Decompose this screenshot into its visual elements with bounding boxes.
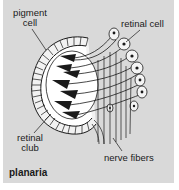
label-retinal-club: retinal club [12,133,48,153]
label-pigment-cell: pigment cell [10,8,50,28]
label-retinal-cell: retinal cell [121,19,164,29]
label-nerve-fibers: nerve fibers [104,153,154,163]
figure-caption: planaria [9,167,47,178]
label-pigment-cell-line2: cell [10,18,50,28]
label-retinal-club-line2: club [12,143,48,153]
